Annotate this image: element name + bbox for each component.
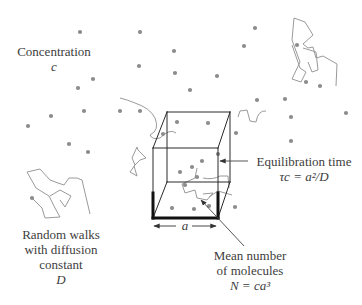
molecule-dot (26, 124, 30, 128)
molecule-dot (86, 150, 90, 154)
concentration-text: Concentration (14, 44, 94, 59)
cube-depth-edge (218, 182, 230, 218)
molecule-dot (234, 131, 238, 135)
random-walks-line2: with diffusion (14, 242, 108, 257)
molecule-dot (255, 98, 259, 102)
random-walks-line3: constant (14, 257, 108, 272)
molecule-dot (188, 88, 192, 92)
molecule-dot (49, 114, 53, 118)
equilibration-label: Equilibration time τc = a²/D (248, 154, 360, 184)
mean-number-label: Mean number of molecules N = ca³ (200, 248, 300, 293)
random-walk-path (303, 48, 318, 72)
molecule-dot (172, 49, 176, 53)
molecule-dot (283, 97, 287, 101)
molecule-dot (78, 30, 82, 34)
diffusion-constant-symbol: D (14, 272, 108, 287)
edge-length-label: a (178, 218, 192, 233)
molecule-dot (304, 80, 308, 84)
molecule-dot (76, 86, 80, 90)
molecule-dot (344, 111, 348, 115)
random-walk-path (120, 98, 176, 139)
molecule-dot (170, 206, 174, 210)
mean-number-line1: Mean number (200, 248, 300, 263)
molecule-dot (178, 170, 182, 174)
molecule-dot (175, 120, 179, 124)
molecule-dot (138, 30, 142, 34)
mean-number-line2: of molecules (200, 263, 300, 278)
molecule-dot (289, 139, 293, 143)
cube-depth-edge (153, 182, 167, 218)
molecule-dot (253, 26, 257, 30)
molecule-dot (82, 109, 86, 113)
molecule-dot (91, 77, 95, 81)
molecule-dot (183, 183, 187, 187)
molecule-dot (215, 74, 219, 78)
molecule-dot (118, 109, 122, 113)
random-walks-line1: Random walks (14, 227, 108, 242)
molecule-dot (233, 205, 237, 209)
molecule-dot (190, 165, 194, 169)
random-walk-path (27, 169, 90, 218)
molecule-dot (206, 121, 210, 125)
molecule-dot (138, 109, 142, 113)
molecule-dot (173, 71, 177, 75)
molecule-dot (242, 44, 246, 48)
molecule-dot (161, 132, 165, 136)
mean-number-formula: N = ca³ (200, 278, 300, 293)
molecule-dot (192, 207, 196, 211)
molecule-dot (318, 84, 322, 88)
molecule-dot (30, 196, 34, 200)
molecule-dot (200, 159, 204, 163)
concentration-label: Concentration c (14, 44, 94, 74)
molecule-dot (67, 142, 71, 146)
concentration-symbol: c (14, 59, 94, 74)
random-walk-path (238, 110, 266, 122)
molecule-dot (295, 43, 299, 47)
cube-depth-edge (218, 112, 230, 148)
random-walk-path (130, 147, 146, 176)
molecule-dot (137, 64, 141, 68)
molecule-dot (289, 115, 293, 119)
mean-number-pointer-arrow (201, 200, 244, 246)
equilibration-text: Equilibration time (248, 154, 360, 169)
equilibration-formula: τc = a²/D (248, 169, 360, 184)
random-walks-label: Random walks with diffusion constant D (14, 227, 108, 287)
molecule-dot (195, 175, 199, 179)
